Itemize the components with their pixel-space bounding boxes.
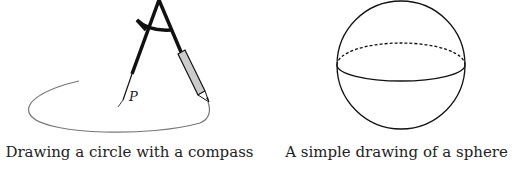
- sphere-figure: A simple drawing of a sphere: [259, 0, 518, 173]
- sphere-caption: A simple drawing of a sphere: [267, 143, 518, 161]
- drawn-arc: [29, 81, 210, 132]
- compass-figure: P Drawing a circle with a compass: [0, 0, 259, 173]
- equator-back: [337, 43, 465, 65]
- compass-caption: Drawing a circle with a compass: [0, 143, 259, 161]
- point-label: P: [129, 89, 138, 104]
- sphere-outline: [337, 1, 465, 129]
- equator-front: [337, 65, 465, 81]
